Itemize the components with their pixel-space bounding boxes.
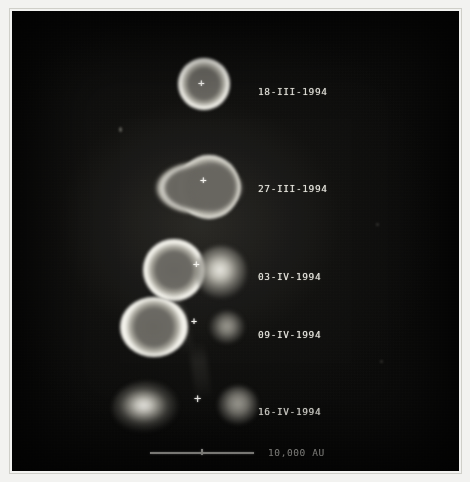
astronomical-plate: + + + + + 18-III-1994 27-III-1994 03-IV-… <box>12 11 459 471</box>
scale-bar-label: 10,000 AU <box>268 447 325 458</box>
scale-bar-tick <box>201 449 203 455</box>
scale-bar: 10,000 AU <box>12 11 459 471</box>
figure-root: + + + + + 18-III-1994 27-III-1994 03-IV-… <box>0 0 470 482</box>
